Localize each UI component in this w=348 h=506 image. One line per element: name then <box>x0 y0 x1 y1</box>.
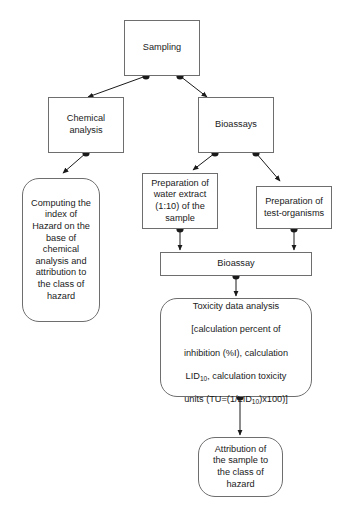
node-toxicity-analysis-label: Toxicity data analysis [calculation perc… <box>164 290 308 406</box>
node-attribution-label: Attribution of the sample to the class o… <box>202 444 279 490</box>
toxicity-line-5-pre: units (TU=(1/LID <box>184 394 252 404</box>
node-water-extract[interactable]: Preparation of water extract (1:10) of t… <box>142 173 218 229</box>
node-bioassay[interactable]: Bioassay <box>160 252 312 276</box>
edge-sampling-to-bioassays <box>176 72 207 97</box>
toxicity-line-2: [calculation percent of <box>191 324 280 334</box>
node-chemical-analysis-label: Chemical analysis <box>52 113 120 136</box>
node-test-organisms-label: Preparation of test-organisms <box>260 196 328 219</box>
node-sampling-label: Sampling <box>128 42 196 54</box>
node-bioassay-label: Bioassay <box>164 258 308 270</box>
toxicity-line-5-post: )x100)] <box>259 394 288 404</box>
node-computing-index[interactable]: Computing the index of Hazard on the bas… <box>22 178 100 322</box>
node-test-organisms[interactable]: Preparation of test-organisms <box>256 186 332 229</box>
edge-bioassays-to-test-organisms <box>252 149 280 181</box>
node-computing-index-label: Computing the index of Hazard on the bas… <box>26 198 96 302</box>
node-bioassays-label: Bioassays <box>202 119 270 131</box>
node-bioassays[interactable]: Bioassays <box>198 97 274 153</box>
edge-water-extract-to-bioassay <box>176 225 183 250</box>
node-sampling[interactable]: Sampling <box>124 20 200 76</box>
toxicity-line-4-post: , calculation toxicity <box>207 371 286 381</box>
node-water-extract-label: Preparation of water extract (1:10) of t… <box>146 178 214 224</box>
node-toxicity-analysis[interactable]: Toxicity data analysis [calculation perc… <box>160 298 312 397</box>
toxicity-line-3: inhibition (%I), calculation <box>184 348 288 358</box>
node-attribution[interactable]: Attribution of the sample to the class o… <box>198 437 283 497</box>
edge-test-organisms-to-bioassay <box>290 225 297 250</box>
node-chemical-analysis[interactable]: Chemical analysis <box>48 97 124 153</box>
toxicity-line-4-pre: LID <box>186 371 200 381</box>
toxicity-line-4: LID10, calculation toxicity <box>186 371 287 381</box>
flowchart-canvas: Sampling Chemical analysis Bioassays Com… <box>0 0 348 506</box>
edge-sampling-to-chemical-analysis <box>88 72 150 97</box>
toxicity-line-5: units (TU=(1/LID10)x100)] <box>184 394 288 404</box>
toxicity-line-1: Toxicity data analysis <box>193 301 279 311</box>
